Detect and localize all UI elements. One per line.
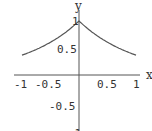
y-tick-label: 0.5	[57, 43, 77, 56]
x-tick-label: -0.5	[35, 78, 62, 91]
y-axis-label: y	[74, 0, 82, 13]
x-tick-label: 0.5	[97, 78, 117, 91]
y-tick-label: -0.5	[49, 100, 76, 113]
x-axis-label: x	[146, 68, 152, 82]
x-tick-label: -1	[14, 78, 27, 91]
y-tick-label: 1	[72, 15, 79, 28]
x-tick-label: 1	[133, 78, 140, 91]
y-tick-label: -1	[68, 127, 81, 131]
plot-area: y x -1 -0.5 0.5 1 1 0.5 -0.5 -1	[0, 0, 152, 131]
